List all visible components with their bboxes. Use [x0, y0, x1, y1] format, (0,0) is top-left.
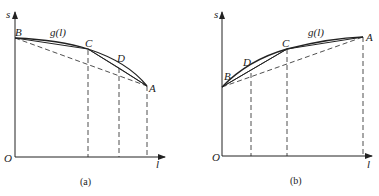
x-axis-label: l	[367, 158, 370, 170]
point-D-label: D	[242, 56, 251, 68]
diagram-canvas: s l O B C D A g(l) (a) s l O B D	[0, 0, 379, 196]
panel-a: s l O B C D A g(l) (a)	[4, 8, 165, 188]
point-C-label: C	[282, 37, 290, 49]
origin-label: O	[4, 152, 12, 164]
chord-BC	[222, 49, 287, 87]
x-axis-label: l	[156, 158, 159, 170]
point-A-label: A	[365, 31, 373, 43]
point-A-label: A	[148, 82, 156, 94]
point-D-label: D	[116, 52, 125, 64]
point-C-label: C	[85, 37, 93, 49]
y-axis-label: s	[6, 8, 10, 20]
origin-label: O	[212, 151, 220, 163]
caption-b: (b)	[290, 175, 302, 187]
curve-label: g(l)	[308, 26, 324, 39]
point-B-label: B	[15, 26, 22, 38]
y-axis-label: s	[214, 8, 218, 20]
chord-BA	[15, 38, 147, 86]
panel-b: s l O B D C A g(l) (b)	[212, 8, 373, 187]
point-B-label: B	[224, 70, 231, 82]
caption-a: (a)	[80, 176, 91, 188]
curve-label: g(l)	[50, 26, 66, 39]
